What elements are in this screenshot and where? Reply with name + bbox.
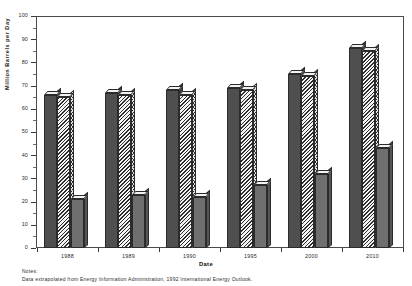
x-tick (37, 248, 38, 252)
x-tick (159, 248, 160, 252)
x-tick-label: 1989 (98, 253, 159, 259)
notes-heading: Notes: (22, 268, 252, 276)
bar-chart-figure: Million Barrels per Day 1988198919901995… (0, 0, 412, 286)
x-tick-label: 2000 (281, 253, 342, 259)
y-tick-label: 80 (0, 60, 28, 65)
y-tick-label: 40 (0, 153, 28, 158)
x-axis: 198819891990199520002010 (0, 0, 412, 286)
y-tick-label: 90 (0, 37, 28, 42)
y-tick-label: 70 (0, 83, 28, 88)
notes-text: Data extrapolated from Energy Informatio… (22, 276, 252, 284)
chart-notes: Notes: Data extrapolated from Energy Inf… (22, 268, 252, 283)
y-tick-label: 100 (0, 13, 28, 18)
y-tick-label: 50 (0, 129, 28, 134)
x-axis-title: Date (0, 261, 412, 267)
x-tick-label: 1990 (159, 253, 220, 259)
x-tick (403, 248, 404, 252)
y-tick-label: 30 (0, 176, 28, 181)
y-tick-label: 10 (0, 222, 28, 227)
y-tick-label: 20 (0, 199, 28, 204)
y-tick-label: 60 (0, 106, 28, 111)
x-tick (281, 248, 282, 252)
x-tick-label: 1995 (220, 253, 281, 259)
x-tick-label: 2010 (342, 253, 403, 259)
x-tick (342, 248, 343, 252)
y-tick-label: 0 (0, 245, 28, 250)
x-tick-label: 1988 (37, 253, 98, 259)
x-tick (220, 248, 221, 252)
x-tick (98, 248, 99, 252)
